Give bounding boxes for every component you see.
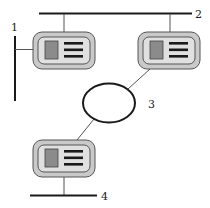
computer-card-icon [33,32,95,69]
computer-card-icon [138,32,200,69]
bus-2-label: 2 [195,8,202,21]
ring-3-label: 3 [148,98,155,111]
network-diagram: 2 1 3 4 [0,0,210,208]
bus-1-label: 1 [11,21,18,34]
ring-3 [83,84,135,123]
link-device-b-to-ring [128,69,150,89]
link-ring-to-device-c [77,119,94,140]
bus-4-label: 4 [101,190,108,203]
computer-card-icon [33,140,95,177]
